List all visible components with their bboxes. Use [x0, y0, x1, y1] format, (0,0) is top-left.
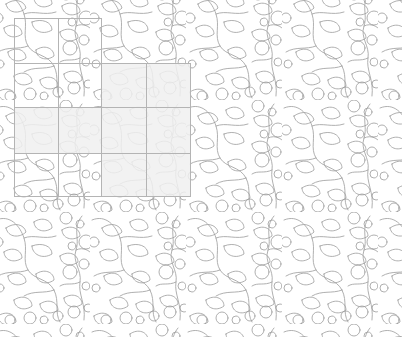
pattern-fill	[0, 0, 402, 337]
pattern-canvas: Leaf and Berry Vine Seamless Pattern wit…	[0, 0, 402, 337]
seamless-pattern-artwork	[0, 0, 402, 337]
